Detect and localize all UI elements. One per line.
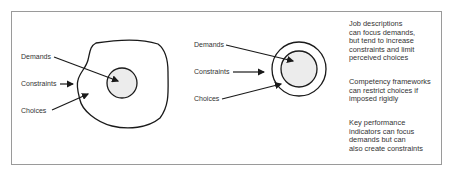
demands-circle-left [107, 68, 137, 98]
note-line: imposed rigidly [349, 95, 445, 104]
label-constraints-right: Constraints [194, 68, 229, 76]
note-competency-frameworks: Competency frameworks can restrict choic… [349, 78, 445, 104]
label-choices-right: Choices [194, 95, 219, 103]
label-choices-left: Choices [21, 107, 46, 115]
demands-arrow-left [54, 57, 118, 81]
note-line: also create constraints [349, 145, 445, 154]
label-demands-left: Demands [21, 53, 51, 61]
label-demands-right: Demands [194, 41, 224, 49]
note-job-descriptions: Job descriptions can focus demands, but … [349, 20, 445, 63]
choices-arrow-left [52, 94, 88, 110]
demands-circle-right [281, 51, 317, 87]
choices-arrow-right [222, 84, 281, 99]
label-constraints-left: Constraints [21, 80, 56, 88]
note-line: perceived choices [349, 54, 445, 63]
note-key-performance-indicators: Key performance indicators can focus dem… [349, 119, 445, 153]
